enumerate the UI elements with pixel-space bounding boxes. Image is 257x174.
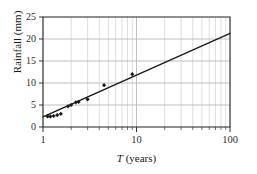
x-tick-label: 1 (40, 134, 45, 145)
x-tick-label: 100 (222, 134, 238, 145)
chart-canvas: 0510152025110100 (0, 0, 257, 174)
y-tick-label: 5 (31, 99, 36, 110)
y-tick-label: 20 (26, 33, 36, 44)
y-tick-label: 25 (26, 11, 36, 22)
x-tick-label: 10 (131, 134, 142, 145)
y-tick-label: 15 (26, 55, 36, 66)
y-tick-label: 10 (26, 77, 36, 88)
rainfall-return-period-figure: 0510152025110100 Rainfall (mm) T (years) (0, 0, 257, 174)
y-axis-title: Rainfall (mm) (11, 0, 23, 97)
y-tick-label: 0 (31, 121, 36, 132)
x-axis-title: T (years) (43, 152, 230, 164)
x-axis-title-unit: (years) (123, 152, 156, 164)
y-axis-title-text: Rainfall (mm) (11, 11, 23, 74)
